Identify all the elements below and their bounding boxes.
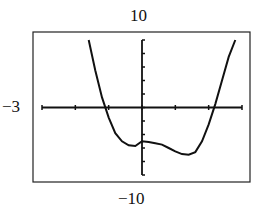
- plot-area: [0, 0, 257, 215]
- axes: [42, 40, 242, 175]
- function-curve: [89, 40, 236, 155]
